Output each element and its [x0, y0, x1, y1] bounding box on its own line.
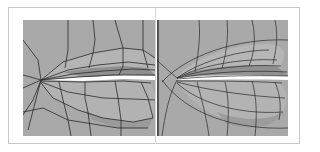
smoothed-lip-panel [157, 20, 288, 136]
smoothed-lip-render [157, 20, 288, 136]
low-poly-lip-panel [23, 20, 155, 136]
panel-divider [155, 7, 156, 144]
low-poly-lip-render [23, 20, 155, 136]
